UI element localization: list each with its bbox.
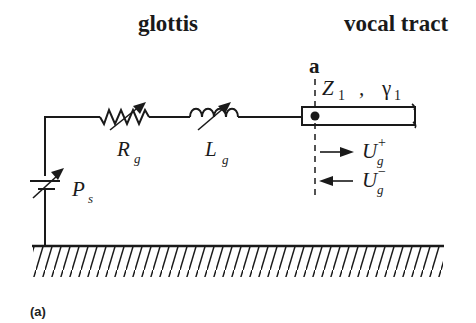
node-a-label: a xyxy=(309,54,320,78)
backward-wave-arrow xyxy=(319,176,353,186)
pressure-source-label: P s xyxy=(71,177,93,206)
svg-text:g: g xyxy=(222,152,229,167)
svg-text:g: g xyxy=(377,182,384,197)
glottis-vocal-tract-circuit: glottis vocal tract a Z 1 , γ 1 R g L g xyxy=(0,0,476,323)
svg-text:+: + xyxy=(378,135,386,150)
vocal-tract-heading: vocal tract xyxy=(344,11,448,36)
svg-text:s: s xyxy=(88,191,93,206)
svg-text:R: R xyxy=(116,137,130,161)
svg-text:Z: Z xyxy=(322,76,334,100)
variable-inductor-icon xyxy=(190,102,302,130)
variable-pressure-source-icon xyxy=(30,168,64,198)
tube-parameters-label: Z 1 , γ 1 xyxy=(322,76,401,103)
svg-text:,: , xyxy=(359,76,364,100)
forward-wave-arrow xyxy=(320,147,354,157)
variable-resistor-icon xyxy=(100,102,190,130)
svg-text:1: 1 xyxy=(394,88,401,103)
backward-wave-label: U g − xyxy=(362,164,386,197)
resistor-label: R g xyxy=(116,137,141,166)
svg-text:L: L xyxy=(204,137,217,161)
hatched-ground-icon xyxy=(32,246,444,277)
figure-caption: (a) xyxy=(30,304,46,319)
svg-text:−: − xyxy=(378,164,386,179)
svg-text:γ: γ xyxy=(381,76,391,100)
inductor-label: L g xyxy=(204,137,229,167)
svg-text:P: P xyxy=(71,177,85,201)
svg-text:g: g xyxy=(134,151,141,166)
svg-text:1: 1 xyxy=(338,88,345,103)
glottis-heading: glottis xyxy=(138,11,198,36)
node-a-dot xyxy=(311,112,320,121)
